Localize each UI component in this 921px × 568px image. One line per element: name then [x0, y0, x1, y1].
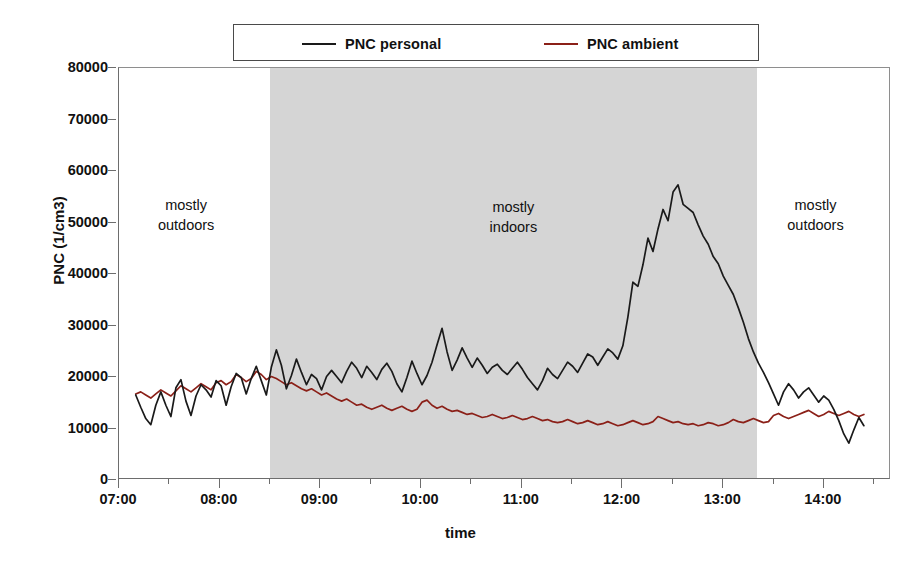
- annotation-mostly-outdoors-morning: mostly outdoors: [121, 196, 251, 235]
- x-axis-title: time: [0, 524, 921, 541]
- y-axis-tick-mark: [108, 170, 116, 171]
- legend-line-swatch-ambient: [544, 43, 578, 45]
- chart-legend: PNC personal PNC ambient: [233, 24, 759, 61]
- annotation-line-1: mostly: [750, 196, 880, 216]
- legend-entry-pnc-ambient: PNC ambient: [544, 25, 678, 62]
- x-axis-minor-tick-mark: [168, 479, 169, 484]
- legend-entry-pnc-personal: PNC personal: [302, 25, 441, 62]
- x-axis-tick-label: 13:00: [704, 491, 741, 507]
- x-axis-tick-mark: [621, 479, 622, 488]
- y-axis-tick-mark: [108, 376, 116, 377]
- annotation-mostly-indoors: mostly indoors: [413, 198, 613, 237]
- legend-label-pnc-personal: PNC personal: [345, 36, 441, 52]
- pnc-time-series-chart: PNC personal PNC ambient PNC (1/cm3) 010…: [0, 0, 921, 568]
- annotation-line-1: mostly: [413, 198, 613, 218]
- x-axis-tick-mark: [823, 479, 824, 488]
- legend-label-pnc-ambient: PNC ambient: [587, 36, 678, 52]
- y-axis-tick-mark: [108, 273, 116, 274]
- series-lines: [119, 68, 889, 478]
- x-axis-minor-tick-mark: [269, 479, 270, 484]
- annotation-line-2: outdoors: [750, 216, 880, 236]
- x-axis-minor-tick-mark: [773, 479, 774, 484]
- x-axis-tick-marks: [118, 479, 890, 491]
- y-axis-tick-mark: [108, 325, 116, 326]
- x-axis-tick-labels: 07:0008:0009:0010:0011:0012:0013:0014:00: [118, 491, 890, 513]
- x-axis-tick-mark: [521, 479, 522, 488]
- x-axis-minor-tick-mark: [672, 479, 673, 484]
- annotation-mostly-outdoors-afternoon: mostly outdoors: [750, 196, 880, 235]
- x-axis-tick-mark: [420, 479, 421, 488]
- x-axis-tick-mark: [722, 479, 723, 488]
- x-axis-tick-label: 11:00: [503, 491, 539, 507]
- y-axis-tick-mark: [108, 428, 116, 429]
- x-axis-minor-tick-mark: [571, 479, 572, 484]
- annotation-line-2: outdoors: [121, 216, 251, 236]
- x-axis-minor-tick-mark: [873, 479, 874, 484]
- x-axis-tick-label: 10:00: [402, 491, 439, 507]
- y-axis-tick-marks: [0, 67, 118, 479]
- x-axis-tick-mark: [319, 479, 320, 488]
- x-axis-tick-label: 07:00: [99, 491, 136, 507]
- x-axis-tick-label: 08:00: [200, 491, 237, 507]
- plot-area: mostly outdoors mostly indoors mostly ou…: [118, 67, 890, 479]
- x-axis-tick-mark: [118, 479, 119, 488]
- x-axis-tick-mark: [219, 479, 220, 488]
- x-axis-tick-label: 12:00: [603, 491, 640, 507]
- y-axis-tick-mark: [108, 67, 116, 68]
- annotation-line-1: mostly: [121, 196, 251, 216]
- x-axis-tick-label: 09:00: [301, 491, 338, 507]
- line-pnc-ambient: [136, 371, 864, 425]
- legend-line-swatch-personal: [302, 43, 336, 45]
- annotation-line-2: indoors: [413, 218, 613, 238]
- x-axis-minor-tick-mark: [470, 479, 471, 484]
- x-axis-minor-tick-mark: [370, 479, 371, 484]
- y-axis-tick-mark: [108, 222, 116, 223]
- y-axis-tick-mark: [108, 119, 116, 120]
- y-axis-tick-mark: [108, 479, 116, 480]
- x-axis-tick-label: 14:00: [804, 491, 841, 507]
